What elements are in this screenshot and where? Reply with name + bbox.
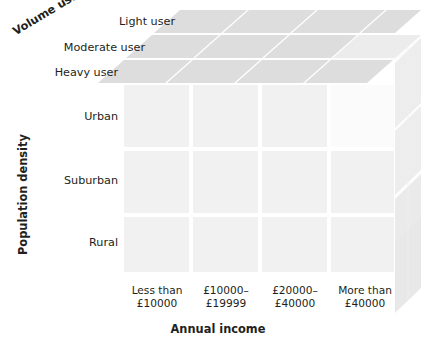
- cell-rural-income3: [262, 217, 327, 272]
- cell-suburban-income1: [124, 151, 189, 213]
- cell-suburban-income3: [262, 151, 327, 213]
- column-label-income-2: £10000– £19999: [191, 284, 261, 309]
- cell-urban-income3: [262, 85, 327, 147]
- cube-front-face: [124, 85, 394, 272]
- row-label-rural: Rural: [18, 236, 118, 249]
- top-layer-heavy-user: [98, 60, 393, 83]
- column-label-income-1: Less than £10000: [122, 284, 192, 309]
- cell-rural-income1: [124, 217, 189, 272]
- depth-label-light-user: Light user: [40, 15, 175, 28]
- axis-title-annual-income: Annual income: [0, 322, 436, 336]
- depth-label-moderate-user: Moderate user: [10, 41, 145, 54]
- column-label-income-3: £20000– £40000: [260, 284, 330, 309]
- row-label-suburban: Suburban: [18, 174, 118, 187]
- column-label-income-4: More than £40000: [329, 284, 401, 309]
- cell-urban-income4: [331, 85, 394, 147]
- cell-suburban-income2: [193, 151, 258, 213]
- row-label-urban: Urban: [18, 110, 118, 123]
- figure-canvas: Light user Moderate user Heavy user Urba…: [0, 0, 436, 343]
- axis-title-population-density: Population density: [16, 134, 30, 255]
- top-layer-light-user: [154, 10, 421, 33]
- cell-rural-income4: [331, 217, 394, 272]
- cell-urban-income1: [124, 85, 189, 147]
- depth-label-heavy-user: Heavy user: [0, 66, 118, 79]
- cell-urban-income2: [193, 85, 258, 147]
- cell-rural-income2: [193, 217, 258, 272]
- cell-suburban-income4: [331, 151, 394, 213]
